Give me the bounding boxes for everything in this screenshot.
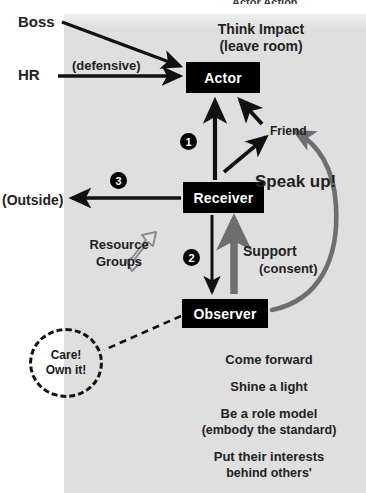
list-item-sub: (embody the standard) (176, 422, 362, 438)
arrow-receiver-to-friend (224, 137, 266, 172)
list-item: Put their interests behind others' (176, 449, 362, 481)
label-resource-groups-line1: Resource (83, 236, 155, 253)
diagram-title: Actor Action (232, 0, 352, 4)
label-boss: Boss (18, 13, 55, 30)
label-outside: (Outside) (2, 192, 63, 208)
care-bubble-line1: Care! (51, 348, 82, 363)
arrow-observer-to-friend-curve (272, 132, 336, 310)
node-observer[interactable]: Observer (182, 299, 268, 328)
list-item-main: Shine a light (230, 379, 307, 394)
step-badge-1: 1 (180, 133, 197, 150)
label-resource-groups-line2: Groups (83, 253, 155, 270)
care-bubble-line2: Own it! (46, 363, 87, 378)
node-actor-label: Actor (204, 70, 242, 86)
label-resource-groups: Resource Groups (83, 236, 155, 270)
node-receiver-label: Receiver (194, 190, 254, 206)
arrow-friend-to-actor (240, 100, 262, 124)
observer-actions-list: Come forward Shine a light Be a role mod… (176, 352, 362, 492)
list-item-main: Come forward (225, 352, 312, 367)
care-own-it-bubble: Care! Own it! (29, 328, 103, 398)
node-observer-label: Observer (193, 306, 256, 322)
label-support: Support (243, 243, 297, 260)
list-item-sub: behind others' (176, 465, 362, 481)
step-badge-3: 3 (110, 172, 127, 189)
diagram-canvas: Actor Receiver Observer 1 2 3 Actor Acti… (0, 0, 366, 493)
label-speak-up: Speak up! (255, 172, 336, 192)
label-think-impact-line2: (leave room) (196, 38, 326, 55)
node-receiver[interactable]: Receiver (183, 182, 264, 213)
step-badge-2: 2 (183, 249, 200, 266)
list-item: Be a role model (embody the standard) (176, 406, 362, 438)
label-friend: Friend (270, 124, 307, 138)
node-actor[interactable]: Actor (186, 62, 260, 93)
list-item: Shine a light (176, 379, 362, 395)
label-think-impact: Think Impact (leave room) (196, 21, 326, 55)
connector-observer-to-care (104, 316, 181, 350)
list-item-main: Be a role model (221, 406, 318, 421)
label-think-impact-line1: Think Impact (196, 21, 326, 38)
label-hr: HR (18, 66, 40, 83)
list-item: Come forward (176, 352, 362, 368)
list-item-main: Put their interests (214, 449, 325, 464)
label-consent: (consent) (259, 261, 318, 276)
label-defensive: (defensive) (72, 58, 141, 73)
